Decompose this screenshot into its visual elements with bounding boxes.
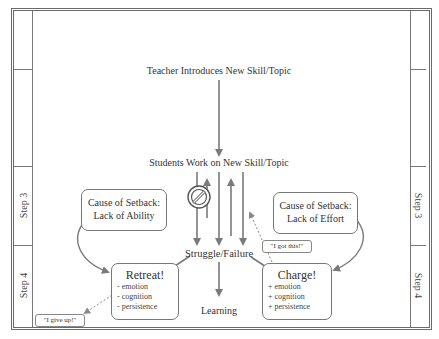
- cause-ability-line1: Cause of Setback:: [82, 196, 166, 209]
- cause-effort-line1: Cause of Setback:: [274, 199, 357, 212]
- connector-layer: [0, 0, 439, 339]
- i-give-up-quote: "I give up!": [35, 314, 85, 327]
- retreat-item-persistence: - persistence: [117, 302, 178, 312]
- retreat-item-emotion: - emotion: [117, 282, 178, 292]
- cause-effort-line2: Lack of Effort: [274, 212, 357, 225]
- cause-lack-of-effort-box: Cause of Setback: Lack of Effort: [273, 192, 358, 234]
- charge-item-persistence: + persistence: [268, 302, 331, 312]
- i-got-this-quote: "I got this!": [262, 240, 312, 253]
- students-work-node: Students Work on New Skill/Topic: [119, 157, 319, 168]
- no-entry-icon: [188, 186, 210, 208]
- setback-cycle-diagram: Step 3 Step 4 Step 3 Step 4: [0, 0, 439, 339]
- cause-lack-of-ability-box: Cause of Setback: Lack of Ability: [81, 189, 167, 231]
- retreat-box: Retreat! - emotion - cognition - persist…: [111, 263, 179, 320]
- charge-title: Charge!: [268, 268, 331, 282]
- retreat-item-cognition: - cognition: [117, 292, 178, 302]
- cause-ability-line2: Lack of Ability: [82, 209, 166, 222]
- charge-box: Charge! + emotion + cognition + persiste…: [262, 263, 332, 320]
- retreat-title: Retreat!: [117, 268, 178, 282]
- charge-item-emotion: + emotion: [268, 282, 331, 292]
- charge-item-cognition: + cognition: [268, 292, 331, 302]
- arrow-retreat-to-giveup: [85, 295, 112, 313]
- teacher-introduces-node: Teacher Introduces New Skill/Topic: [119, 65, 319, 76]
- learning-node: Learning: [189, 305, 249, 316]
- struggle-failure-node: Struggle/Failure: [169, 248, 269, 259]
